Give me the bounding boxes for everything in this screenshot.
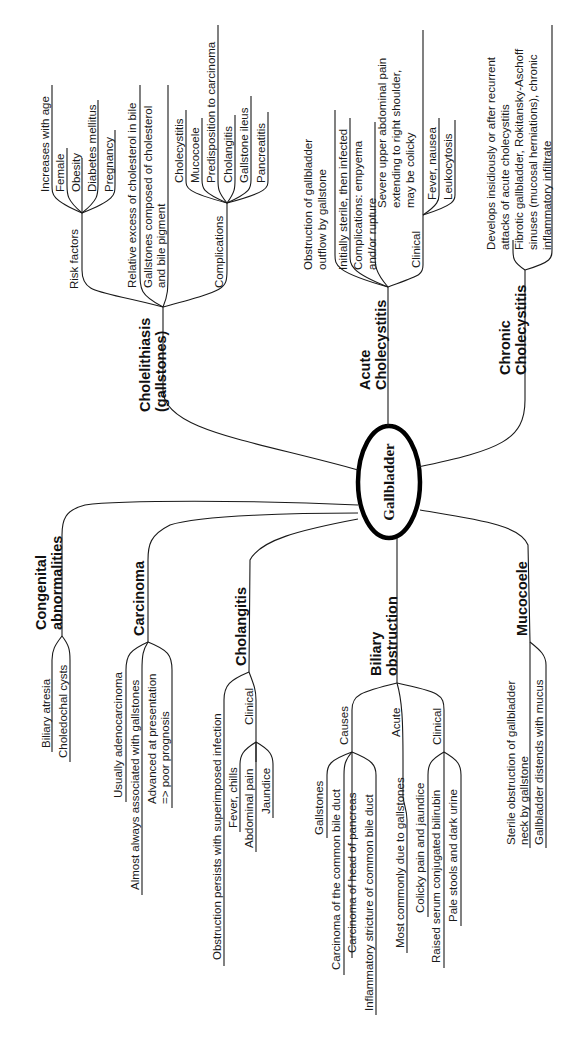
branch-congenital-abnormalities: Congenital abnormalities Biliary atresia… — [33, 501, 358, 762]
mucocoele-item: neck by gallstone — [518, 756, 530, 845]
center-label: Gallbladder — [381, 443, 397, 521]
clinical-item: Fever, nausea — [426, 127, 438, 200]
risk-factor-item: Increases with age — [39, 96, 51, 192]
center-node: Gallbladder — [358, 426, 420, 538]
clinical-item: Leukocytosis — [442, 133, 454, 200]
branch-title: Chronic — [497, 320, 513, 375]
fact-text: Gallstones composed of cholesterol — [142, 106, 154, 288]
cause-item: Carcinoma of the common bile duct — [330, 788, 342, 970]
complications-label: Complications — [213, 216, 225, 288]
fact-text: Obstruction of gallbladder — [302, 139, 314, 270]
branch-title: (gallstones) — [153, 330, 169, 412]
risk-factor-item: Obesity — [70, 153, 82, 192]
clinical-item: Colicky pain and jaundice — [414, 783, 426, 913]
complication-item: Mucocoele — [189, 127, 201, 183]
cause-item: Inflammatory stricture of common bile du… — [363, 794, 375, 1011]
mind-map-canvas: Gallbladder Cholelithiasis (gallstones) … — [0, 0, 577, 1038]
branch-title: Cholangitis — [233, 587, 249, 666]
fact-text: inflammatory infiltrate — [541, 141, 553, 250]
fact-text: outflow by gallstone — [316, 169, 328, 270]
branch-title: Cholecystitis — [373, 300, 389, 390]
risk-factors-label: Risk factors — [68, 229, 80, 289]
complication-item: Predisposition to carcinoma — [205, 41, 217, 183]
clinical-item: may be colicky — [404, 132, 416, 208]
branch-title: obstruction — [384, 596, 400, 676]
clinical-label: Clinical — [243, 688, 255, 725]
clinical-label: Clinical — [410, 231, 422, 268]
fact-text: attacks of acute cholecystitis — [499, 104, 511, 250]
fact-text: Develops insidiously or after recurrent — [485, 56, 497, 250]
complication-item: Cholangitis — [222, 126, 234, 183]
branch-title: Carcinoma — [131, 560, 147, 636]
clinical-item: Abdominal pain — [243, 769, 255, 848]
clinical-item: Severe upper abdominal pain — [376, 58, 388, 208]
branch-title: Acute — [357, 350, 373, 390]
branch-title: Biliary — [368, 632, 384, 676]
branch-title: Cholecystitis — [513, 285, 529, 375]
clinical-label: Clinical — [431, 708, 443, 745]
carcinoma-item: Usually adenocarcinoma — [112, 671, 124, 798]
branch-carcinoma: Carcinoma Usually adenocarcinoma Almost … — [112, 513, 358, 895]
fact-text: Relative excess of cholesterol in bile — [126, 103, 138, 288]
clinical-item: Raised serum conjugated bilirubin — [430, 790, 442, 963]
branch-biliary-obstruction: Biliary obstruction Causes Acute Clinica… — [313, 538, 461, 1015]
mucocoele-item: Gallbladder distends with mucus — [533, 679, 545, 845]
clinical-item: Fever, chills — [227, 767, 239, 828]
cause-item: Gallstones — [313, 780, 325, 835]
fact-text: sinuses (mucosal herniations), chronic — [527, 54, 539, 250]
mucocoele-item: Sterile obstruction of gallbladder — [505, 681, 517, 845]
clinical-item: Pale stools and dark urine — [447, 789, 459, 922]
fact-text: Obstruction persists with superimposed i… — [211, 713, 223, 960]
carcinoma-item: Advanced at presentation — [146, 674, 158, 804]
risk-factor-item: Diabetes mellitus — [86, 104, 98, 192]
cause-item: Carcinoma of head of pancreas — [346, 792, 358, 953]
risk-factor-item: Pregnancy — [103, 137, 115, 192]
congenital-item: Biliary atresia — [40, 678, 52, 748]
fact-text: and bile pigment — [155, 203, 167, 288]
branch-title: Cholelithiasis — [137, 318, 153, 412]
complication-item: Cholecystitis — [173, 118, 185, 183]
fact-text: Fibrotic gallbladder, Rokitansky-Aschoff — [513, 48, 525, 250]
risk-factor-item: Female — [54, 154, 66, 192]
branch-title: Congenital — [33, 555, 49, 630]
complication-item: Pancreatitis — [255, 123, 267, 183]
carcinoma-item: => poor prognosis — [159, 711, 171, 804]
complication-item: Gallstone ileus — [238, 107, 250, 183]
branch-title: Mucocoele — [514, 561, 530, 636]
acute-item: Most commonly due to gallstones — [394, 777, 406, 948]
causes-label: Causes — [338, 706, 350, 745]
clinical-item: extending to right shoulder, — [390, 70, 402, 208]
branch-title: abnormalities — [49, 536, 65, 630]
branch-acute-cholecystitis: Acute Cholecystitis Obstruction of gallb… — [302, 30, 455, 426]
branch-chronic-cholecystitis: Chronic Cholecystitis Develops insidious… — [418, 25, 553, 467]
acute-label: Acute — [390, 708, 402, 737]
fact-text: Complications: empyema — [352, 140, 364, 270]
carcinoma-item: Almost always associated with gallstones — [129, 679, 141, 890]
congenital-item: Choledochal cysts — [57, 664, 69, 758]
fact-text: Initially sterile, then infected — [337, 129, 349, 270]
clinical-item: Jaundice — [260, 768, 272, 814]
